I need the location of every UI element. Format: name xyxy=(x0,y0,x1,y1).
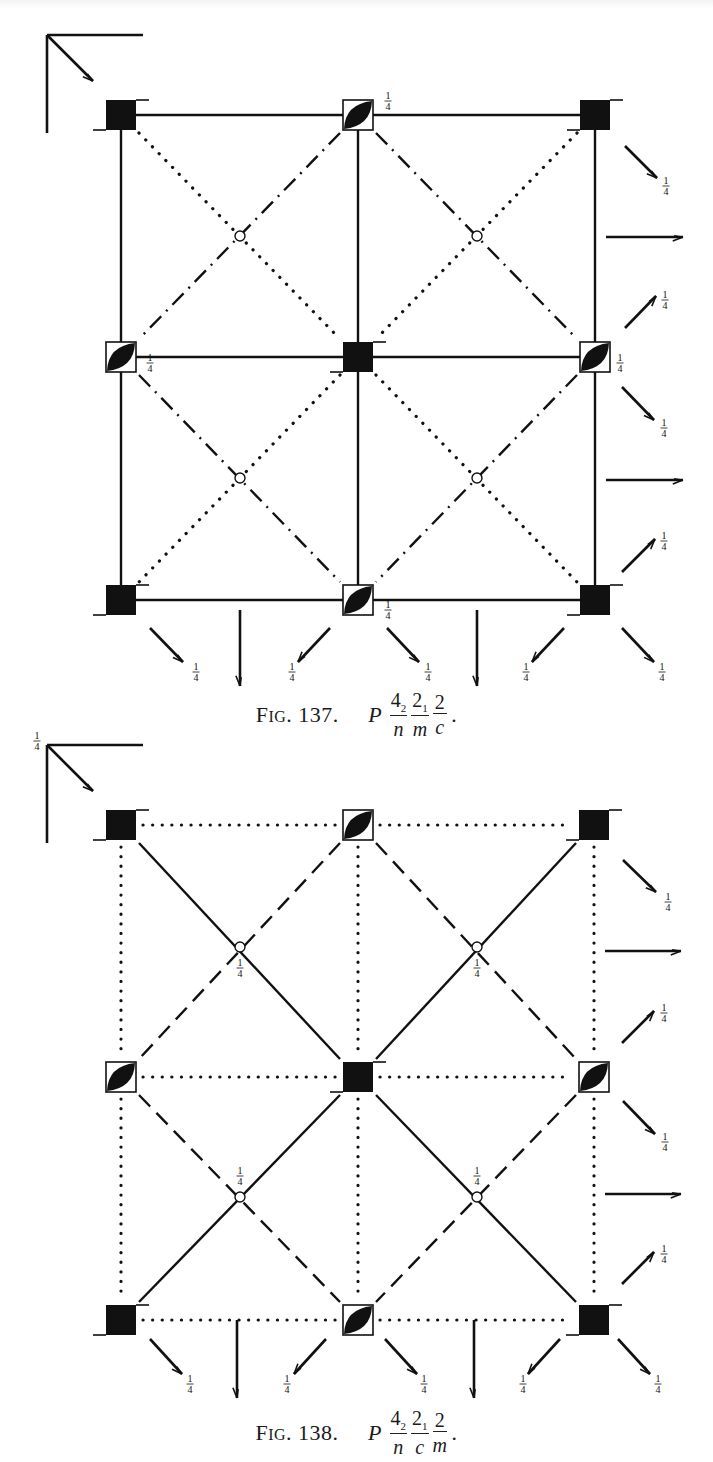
diad-lens-icon xyxy=(343,1305,373,1335)
arrow-height-label: 14 xyxy=(661,1002,668,1024)
svg-text:1: 1 xyxy=(238,957,243,968)
arrow-height-label: 14 xyxy=(655,1373,662,1395)
symbol-fraction: 42n xyxy=(390,1408,408,1457)
arrow-height-label: 14 xyxy=(520,1373,527,1395)
svg-text:4: 4 xyxy=(662,1013,667,1024)
arrow-height-label: 14 xyxy=(661,1243,668,1265)
side-axis-arrow xyxy=(623,1101,655,1134)
svg-text:1: 1 xyxy=(188,1373,193,1384)
svg-text:4: 4 xyxy=(422,1384,427,1395)
figure-138-diagram: 1414141414141414141414141414 xyxy=(0,0,713,1462)
inversion-height-label: 14 xyxy=(237,1165,244,1187)
figure-138-caption: FIG. 138. P 42n 21c 2m . xyxy=(0,1408,713,1457)
tetrad-axis-icon xyxy=(566,810,622,840)
lattice-symbol: P xyxy=(368,1420,381,1446)
svg-text:4: 4 xyxy=(662,1254,667,1265)
bottom-axis-arrow xyxy=(385,1339,417,1374)
bottom-axis-arrow xyxy=(470,1320,475,1398)
caption-period: . xyxy=(452,1420,458,1446)
diad-lens-icon xyxy=(106,1062,136,1092)
tetrad-axis-icon xyxy=(93,1305,149,1335)
space-group-symbol: P 42n 21c 2m . xyxy=(368,1408,457,1457)
arrow-height-label: 14 xyxy=(187,1373,194,1395)
tetrad-axis-icon xyxy=(93,810,149,840)
diad-lens-icon xyxy=(579,1062,609,1092)
svg-text:1: 1 xyxy=(662,1002,667,1013)
side-axis-arrow xyxy=(605,1193,681,1198)
inversion-center-icon xyxy=(235,942,245,952)
side-axis-arrow xyxy=(622,1011,654,1043)
svg-text:4: 4 xyxy=(663,1142,668,1153)
bottom-axis-arrow xyxy=(618,1339,650,1374)
svg-text:1: 1 xyxy=(475,1165,480,1176)
inversion-center-icon xyxy=(235,1192,245,1202)
svg-text:1: 1 xyxy=(663,1131,668,1142)
svg-text:4: 4 xyxy=(238,968,243,979)
tetrad-axis-icon xyxy=(330,1062,386,1092)
svg-text:4: 4 xyxy=(285,1384,290,1395)
tetrad-axis-icon xyxy=(566,1305,622,1335)
bottom-axis-arrow xyxy=(528,1339,560,1374)
symbol-fraction: 21c xyxy=(411,1408,429,1457)
svg-text:1: 1 xyxy=(662,1243,667,1254)
arrow-height-label: 14 xyxy=(665,891,672,913)
svg-text:4: 4 xyxy=(475,1176,480,1187)
bottom-axis-arrow xyxy=(233,1320,238,1398)
side-axis-arrow xyxy=(605,950,681,955)
svg-text:4: 4 xyxy=(521,1384,526,1395)
svg-text:1: 1 xyxy=(656,1373,661,1384)
svg-text:4: 4 xyxy=(666,902,671,913)
figure-label: FIG. 138. xyxy=(255,1420,338,1445)
svg-text:4: 4 xyxy=(656,1384,661,1395)
svg-text:4: 4 xyxy=(35,741,40,752)
inversion-height-label: 14 xyxy=(474,957,481,979)
svg-text:1: 1 xyxy=(422,1373,427,1384)
inversion-center-icon xyxy=(472,942,482,952)
diad-lens-icon xyxy=(343,810,373,840)
svg-text:4: 4 xyxy=(475,968,480,979)
arrow-height-label: 14 xyxy=(421,1373,428,1395)
bottom-axis-arrow xyxy=(150,1339,182,1374)
symbol-fraction: 2m xyxy=(433,1410,447,1455)
bottom-axis-arrow xyxy=(294,1339,326,1374)
arrow-height-label: 14 xyxy=(662,1131,669,1153)
inversion-height-label: 14 xyxy=(237,957,244,979)
svg-text:4: 4 xyxy=(238,1176,243,1187)
axis-height-label: 14 xyxy=(34,730,41,752)
svg-text:4: 4 xyxy=(188,1384,193,1395)
svg-text:1: 1 xyxy=(521,1373,526,1384)
inversion-height-label: 14 xyxy=(474,1165,481,1187)
svg-text:1: 1 xyxy=(666,891,671,902)
axis-diagonal-arrow xyxy=(47,745,93,791)
svg-text:1: 1 xyxy=(475,957,480,968)
fig138-elements: 1414141414141414141414141414 xyxy=(34,730,682,1398)
arrow-height-label: 14 xyxy=(284,1373,291,1395)
inversion-center-icon xyxy=(472,1192,482,1202)
svg-text:1: 1 xyxy=(285,1373,290,1384)
side-axis-arrow xyxy=(622,1252,654,1284)
side-axis-arrow xyxy=(623,860,656,892)
svg-text:1: 1 xyxy=(35,730,40,741)
svg-text:1: 1 xyxy=(238,1165,243,1176)
